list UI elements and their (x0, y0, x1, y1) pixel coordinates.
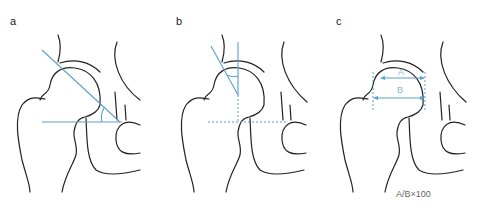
pelvis-upper-outline (58, 35, 60, 62)
obturator-arc (116, 122, 140, 154)
ischium-outline (282, 42, 307, 102)
acetabulum-roof (224, 61, 264, 72)
measure-a-arrow-left (380, 76, 385, 80)
pubis-line-1 (115, 92, 117, 120)
femoral-head-outline (363, 68, 423, 192)
pubis-line-1 (281, 92, 283, 120)
pubis-line-2 (125, 105, 126, 120)
angle-arc (227, 75, 238, 77)
hip-diagram-c: A B (320, 0, 479, 215)
angle-arc (101, 108, 104, 122)
femur-inner (409, 118, 463, 174)
measure-b-label: B (397, 85, 403, 95)
hip-diagram-a (0, 0, 160, 215)
pubis-line-2 (449, 105, 450, 120)
femur-inner (250, 118, 304, 174)
femoral-head-outline (204, 68, 264, 192)
formula-text: A/B×100 (396, 189, 431, 199)
measure-a-label: A (398, 67, 404, 77)
pubis-line-1 (440, 92, 442, 120)
oblique-line (211, 46, 238, 95)
measure-b-arrow-right (420, 96, 425, 100)
femur-outer (17, 98, 45, 192)
ce-angle-oblique-line (42, 50, 120, 122)
femoral-head-outline (40, 68, 100, 192)
ischium-outline (115, 42, 140, 100)
measure-a-arrow-right (420, 76, 425, 80)
acetabulum-roof (60, 61, 100, 72)
panel-c: c A B (320, 0, 479, 215)
pelvis-upper-outline (381, 35, 383, 62)
pelvis-upper-outline (222, 35, 224, 62)
femur-outer (181, 98, 209, 192)
obturator-arc (282, 122, 306, 154)
femur-outer (340, 98, 368, 192)
measure-b-arrow-left (373, 96, 378, 100)
panel-a: a (0, 0, 160, 215)
hip-diagram-b (160, 0, 320, 215)
ischium-outline (441, 42, 466, 102)
obturator-arc (441, 122, 465, 154)
femur-inner (86, 118, 140, 174)
pubis-line-2 (290, 105, 291, 120)
panel-b: b (160, 0, 320, 215)
